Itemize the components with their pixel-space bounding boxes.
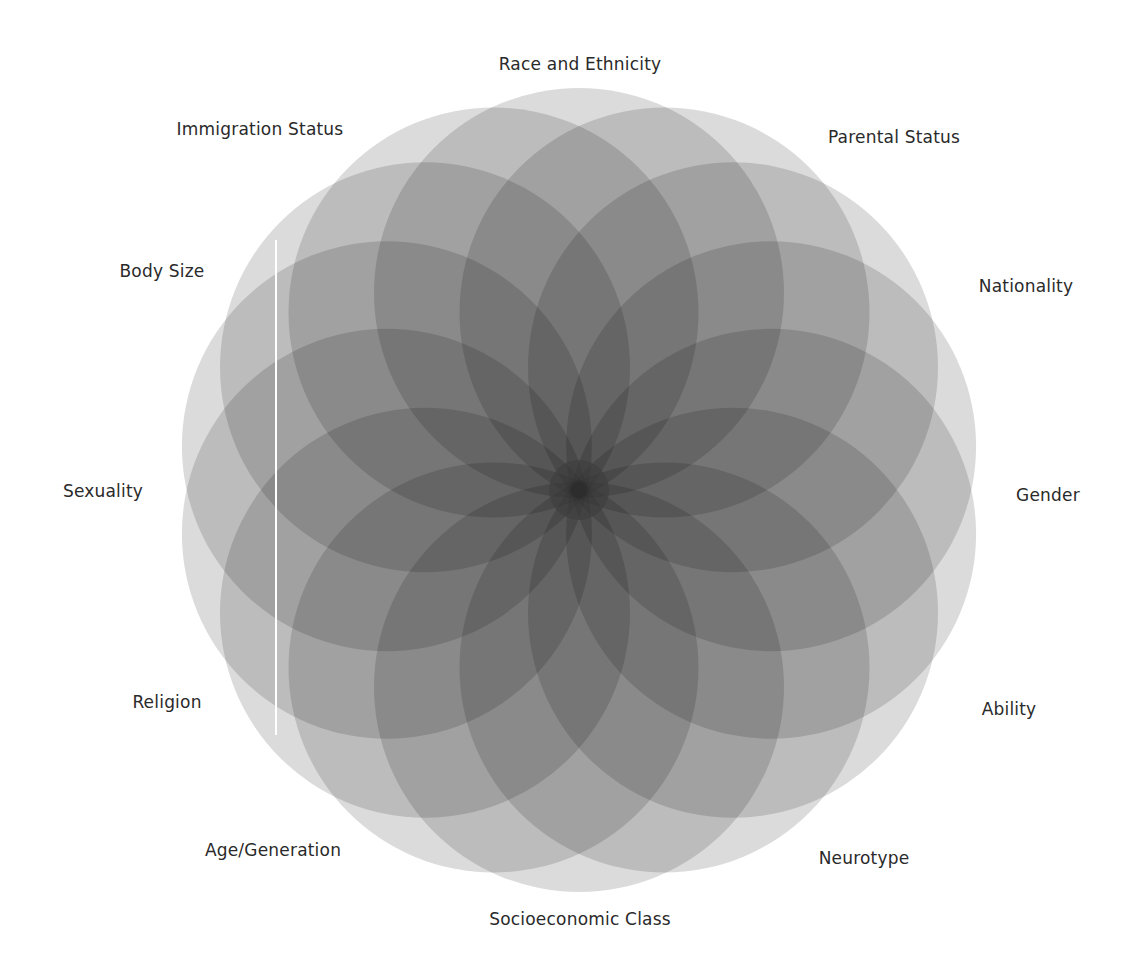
- petal-circle: [289, 108, 699, 518]
- category-label: Sexuality: [63, 481, 143, 501]
- category-label: Body Size: [119, 261, 204, 281]
- category-label: Age/Generation: [205, 840, 341, 860]
- category-label: Race and Ethnicity: [499, 54, 662, 74]
- category-label: Religion: [132, 692, 201, 712]
- category-label: Neurotype: [819, 848, 910, 868]
- category-label: Ability: [982, 699, 1037, 719]
- category-label: Nationality: [979, 276, 1074, 296]
- category-label: Parental Status: [828, 127, 960, 147]
- category-label: Gender: [1016, 485, 1080, 505]
- intersectionality-flower-diagram: [0, 0, 1141, 953]
- center-core: [549, 460, 609, 520]
- category-label: Immigration Status: [177, 119, 344, 139]
- category-label: Socioeconomic Class: [489, 909, 671, 929]
